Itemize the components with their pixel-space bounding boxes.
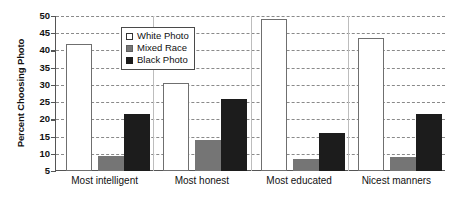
y-axis-tick-label: 40: [24, 45, 50, 55]
bar-black: [221, 99, 247, 171]
legend-label: Mixed Race: [137, 42, 187, 54]
bar-gray: [98, 156, 124, 172]
y-axis-tick-mark: [51, 85, 56, 86]
bar-black: [416, 114, 442, 171]
y-axis-tick-mark: [51, 33, 56, 34]
y-axis-tick-label: 5: [24, 166, 50, 176]
group-separator: [251, 16, 252, 171]
x-axis-category-labels: Most intelligentMost honestMost educated…: [56, 174, 445, 194]
x-axis-category-label: Most honest: [153, 174, 250, 188]
plot-area: [56, 16, 445, 171]
y-axis-tick-label: 10: [24, 149, 50, 159]
y-axis-tick-label: 25: [24, 97, 50, 107]
bar-gray: [293, 159, 319, 171]
legend-item: White Photo: [126, 30, 189, 42]
y-axis-tick-mark: [51, 16, 56, 17]
bar-gray: [195, 140, 221, 171]
legend-item: Black Photo: [126, 54, 189, 66]
bar-black: [319, 133, 345, 171]
bar-gray: [390, 157, 416, 171]
bar-white: [66, 44, 92, 171]
bar-white: [261, 19, 287, 171]
legend-label: White Photo: [137, 30, 189, 42]
y-axis-tick-mark: [51, 119, 56, 120]
bar-white: [163, 83, 189, 171]
group-separator: [348, 16, 349, 171]
legend-swatch-black: [126, 57, 133, 64]
bar-black: [124, 114, 150, 171]
y-axis-tick-label: 50: [24, 11, 50, 21]
bar-chart: Percent Choosing Photo 50454035302520151…: [0, 0, 450, 200]
y-axis-tick-label: 30: [24, 80, 50, 90]
legend-swatch-gray: [126, 45, 133, 52]
y-axis-tick-labels: 5045403530252015105: [24, 10, 50, 178]
chart-legend: White PhotoMixed RaceBlack Photo: [121, 27, 195, 70]
x-axis-category-label: Nicest manners: [348, 174, 445, 188]
y-axis-tick-mark: [51, 154, 56, 155]
y-axis-tick-label: 45: [24, 28, 50, 38]
legend-swatch-white: [126, 33, 133, 40]
bar-white: [358, 38, 384, 171]
legend-label: Black Photo: [137, 54, 188, 66]
y-axis-tick-mark: [51, 137, 56, 138]
y-axis-tick-label: 20: [24, 114, 50, 124]
y-axis-tick-mark: [51, 102, 56, 103]
y-axis-tick-mark: [51, 68, 56, 69]
y-axis-tick-label: 35: [24, 63, 50, 73]
x-axis-category-label: Most educated: [251, 174, 348, 188]
x-axis-category-label: Most intelligent: [56, 174, 153, 188]
y-axis-tick-mark: [51, 50, 56, 51]
legend-item: Mixed Race: [126, 42, 189, 54]
y-axis-tick-label: 15: [24, 132, 50, 142]
y-axis-tick-mark: [51, 171, 56, 172]
